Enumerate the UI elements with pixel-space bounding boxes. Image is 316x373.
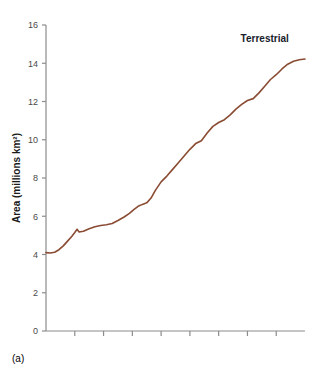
series-label-terrestrial: Terrestrial: [241, 33, 289, 44]
y-axis-tick-label: 12: [28, 97, 38, 107]
y-axis-group: 0246810121416 Area (millions km²): [11, 20, 46, 336]
y-axis-tick-label: 2: [33, 288, 38, 298]
y-axis-tick-label: 0: [33, 326, 38, 336]
y-axis-tick-labels: 0246810121416: [28, 20, 38, 336]
y-axis-tick-label: 16: [28, 20, 38, 30]
y-axis-tick-label: 6: [33, 212, 38, 222]
y-axis-tick-label: 4: [33, 250, 38, 260]
panel-caption: (a): [12, 353, 24, 364]
y-axis-title: Area (millions km²): [11, 133, 22, 223]
series-line-terrestrial: [46, 59, 305, 253]
series-group: Terrestrial: [46, 33, 305, 253]
x-axis-group: [46, 331, 305, 336]
y-axis-tick-label: 10: [28, 135, 38, 145]
y-axis-tick-label: 14: [28, 59, 38, 69]
figure-panel: 0246810121416 Area (millions km²) Terres…: [0, 0, 316, 373]
y-axis-tick-label: 8: [33, 173, 38, 183]
line-chart: 0246810121416 Area (millions km²) Terres…: [0, 0, 316, 373]
x-axis-ticks: [75, 331, 276, 336]
